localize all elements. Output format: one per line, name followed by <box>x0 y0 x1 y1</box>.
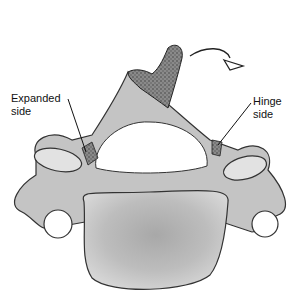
right-transverse-foramen <box>252 211 278 237</box>
rotation-arrow-icon <box>190 49 243 70</box>
expanded-side-label: Expanded side <box>11 92 61 118</box>
vertebra-illustration <box>0 0 297 303</box>
expanded-label-line2: side <box>11 105 61 118</box>
hinge-side-label: Hinge side <box>253 95 282 121</box>
expanded-label-line1: Expanded <box>11 92 61 105</box>
vertebral-body <box>83 191 228 290</box>
hinge-label-line2: side <box>253 108 282 121</box>
left-transverse-foramen <box>44 210 72 238</box>
hinge-leader-line <box>218 103 251 145</box>
hinge-label-line1: Hinge <box>253 95 282 108</box>
